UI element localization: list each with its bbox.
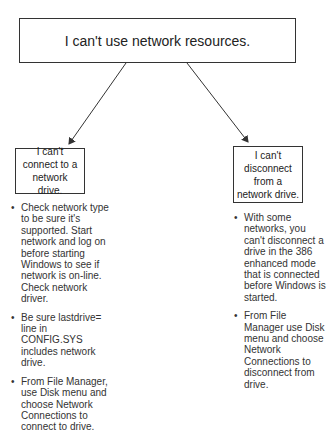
- tip-text: From File Manager, use Disk menu and cho…: [21, 376, 108, 433]
- bullet-icon: •: [234, 212, 238, 223]
- connect-tips-list: • Check network type to be sure it's sup…: [9, 202, 109, 440]
- tip-text: With some networks, you can't disconnect…: [244, 212, 326, 303]
- tip-text: Be sure lastdrive= line in CONFIG.SYS in…: [21, 312, 101, 369]
- list-item: • Check network type to be sure it's sup…: [9, 202, 109, 305]
- disconnect-tips-list: • With some networks, you can't disconne…: [232, 212, 328, 397]
- list-item: • Be sure lastdrive= line in CONFIG.SYS …: [9, 312, 109, 369]
- bullet-icon: •: [11, 312, 15, 323]
- connect-problem-label: I can't connect to a network drive.: [19, 145, 81, 197]
- bullet-icon: •: [234, 310, 238, 321]
- connect-problem-box: I can't connect to a network drive.: [15, 148, 85, 194]
- arrow-to-disconnect: [187, 63, 248, 142]
- root-problem-label: I can't use network resources.: [65, 33, 251, 49]
- disconnect-problem-box: I can't disconnect from a network drive.: [233, 146, 303, 203]
- tip-text: From File Manager use Disk menu and choo…: [244, 310, 325, 389]
- bullet-icon: •: [11, 202, 15, 213]
- arrow-to-connect: [69, 63, 126, 144]
- disconnect-problem-label: I can't disconnect from a network drive.: [236, 149, 300, 201]
- tip-text: Check network type to be sure it's suppo…: [21, 202, 109, 304]
- list-item: • From File Manager use Disk menu and ch…: [232, 310, 328, 390]
- list-item: • With some networks, you can't disconne…: [232, 212, 328, 303]
- list-item: • From File Manager, use Disk menu and c…: [9, 376, 109, 433]
- bullet-icon: •: [11, 376, 15, 387]
- root-problem-box: I can't use network resources.: [19, 18, 296, 63]
